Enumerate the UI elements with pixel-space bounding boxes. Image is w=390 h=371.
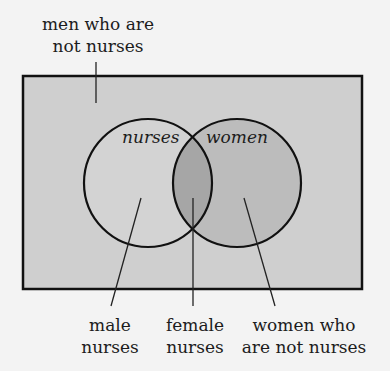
label-men-not-nurses: men who are not nurses bbox=[28, 13, 168, 57]
label-female-nurses: female nurses bbox=[150, 314, 240, 358]
label-women-not-nurses: women who are not nurses bbox=[234, 314, 374, 358]
label-male-nurses: male nurses bbox=[62, 314, 158, 358]
set-label-women: women bbox=[206, 127, 268, 147]
set-label-nurses: nurses bbox=[122, 127, 180, 147]
